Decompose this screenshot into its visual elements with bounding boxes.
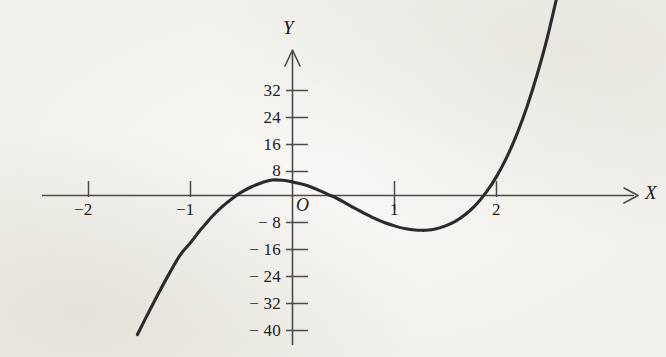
x-tick-label-1: 1 (390, 200, 399, 220)
y-tick-label-24: 24 (221, 108, 281, 128)
y-tick-label-16: 16 (221, 135, 281, 155)
y-tick-label--16: − 16 (211, 240, 281, 260)
y-tick-label--8: − 8 (211, 213, 281, 233)
cubic-function-plot (0, 0, 666, 357)
figure-container: Y X O −2 −1 1 2 32 24 16 8 − 8 − 16 − 24… (0, 0, 666, 357)
x-tick-label--2: −2 (74, 200, 93, 220)
x-tick-label--1: −1 (176, 200, 195, 220)
y-tick-label-8: 8 (221, 161, 281, 181)
x-axis-label: X (645, 182, 657, 204)
y-tick-label--32: − 32 (211, 294, 281, 314)
y-axis-label: Y (283, 17, 294, 39)
x-tick-label-2: 2 (492, 200, 501, 220)
origin-label: O (296, 195, 309, 216)
y-tick-label-32: 32 (221, 81, 281, 101)
y-tick-label--40: − 40 (211, 321, 281, 341)
cubic-curve (137, 0, 560, 335)
y-tick-label--24: − 24 (211, 267, 281, 287)
